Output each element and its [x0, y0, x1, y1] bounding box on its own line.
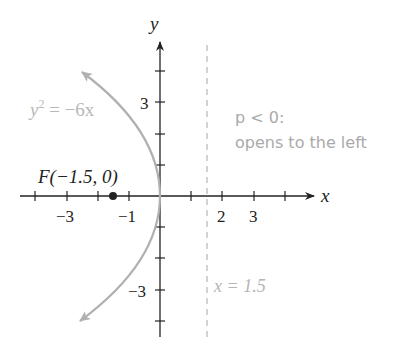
equation-rhs: = −6x	[44, 99, 94, 120]
x-tick-label-2: 2	[217, 207, 226, 226]
y-tick-label-3: 3	[140, 94, 149, 113]
parabola-equation: y2 = −6x	[28, 97, 95, 120]
x-tick-label-neg3: −3	[56, 207, 74, 226]
parabola-diagram: y x −3 −1 2 3 3 −3 F(−1.5, 0) y2 = −6x x…	[0, 0, 398, 349]
x-axis-label: x	[320, 185, 330, 206]
y-axis-label: y	[148, 13, 159, 34]
focus-point	[109, 192, 117, 200]
x-tick-label-3: 3	[249, 207, 258, 226]
equation-lhs: y	[28, 99, 39, 120]
focus-label: F(−1.5, 0)	[37, 166, 118, 188]
y-tick-label-neg3: −3	[128, 282, 146, 301]
note-line-1: p < 0:	[235, 108, 284, 127]
x-tick-label-neg1: −1	[118, 207, 136, 226]
directrix-label: x = 1.5	[213, 276, 266, 296]
note-line-2: opens to the left	[235, 133, 367, 152]
